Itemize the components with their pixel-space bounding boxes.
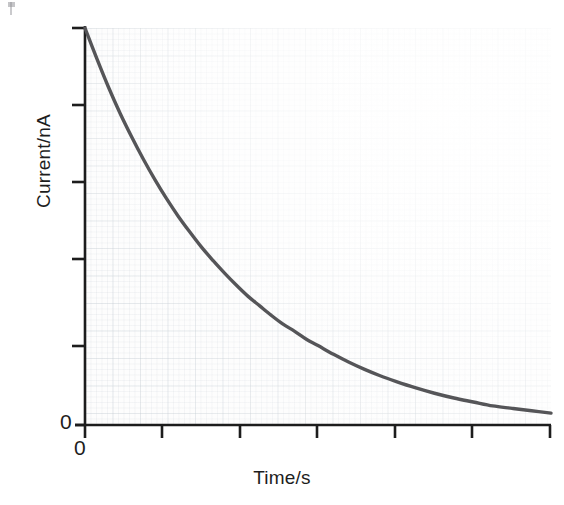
x-axis-title: Time/s xyxy=(0,467,564,489)
x-axis-ticks xyxy=(85,425,550,438)
axes-and-curve-layer xyxy=(0,0,564,505)
y-axis-zero-label: 0 xyxy=(60,411,72,432)
y-axis-ticks xyxy=(72,28,85,425)
y-axis-title: Current/nA xyxy=(33,81,55,241)
decay-curve xyxy=(85,28,551,413)
figure-exponential-decay: 0 0 Current/nA Time/s xyxy=(0,0,564,505)
x-axis-zero-label: 0 xyxy=(74,437,86,458)
